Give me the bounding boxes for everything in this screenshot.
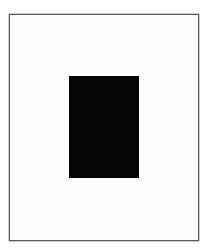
black-rectangle	[69, 76, 139, 178]
